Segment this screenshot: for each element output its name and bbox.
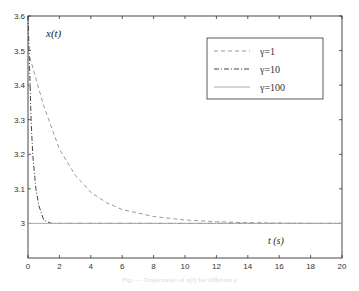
y-tick-label: 3 bbox=[21, 219, 26, 228]
x-tick-label: 0 bbox=[26, 262, 31, 271]
x-tick-label: 10 bbox=[181, 262, 190, 271]
y-tick-label: 3.5 bbox=[14, 47, 26, 56]
x-tick-label: 20 bbox=[338, 262, 347, 271]
line-chart: 0246810121416182033.13.23.33.43.53.6 x(t… bbox=[0, 0, 359, 291]
y-tick-label: 3.4 bbox=[14, 81, 26, 90]
legend-label: γ=100 bbox=[259, 82, 285, 93]
x-tick-label: 4 bbox=[89, 262, 94, 271]
x-tick-label: 18 bbox=[306, 262, 315, 271]
figure-caption: Fig. — Trajectories of x(t) for differen… bbox=[0, 276, 359, 284]
x-tick-label: 2 bbox=[57, 262, 62, 271]
y-tick-label: 3.3 bbox=[14, 116, 26, 125]
y-axis-label: x(t) bbox=[45, 27, 62, 40]
y-tick-label: 3.2 bbox=[14, 150, 26, 159]
x-tick-label: 14 bbox=[243, 262, 252, 271]
x-tick-label: 12 bbox=[212, 262, 221, 271]
legend: γ=1 γ=10 γ=100 bbox=[207, 38, 323, 99]
x-tick-label: 8 bbox=[151, 262, 156, 271]
legend-label: γ=10 bbox=[259, 64, 280, 75]
x-tick-label: 6 bbox=[120, 262, 125, 271]
x-tick-label: 16 bbox=[275, 262, 284, 271]
x-axis-label: t (s) bbox=[268, 235, 285, 247]
y-tick-label: 3.1 bbox=[14, 185, 26, 194]
legend-label: γ=1 bbox=[259, 46, 275, 57]
y-tick-label: 3.6 bbox=[14, 12, 26, 21]
